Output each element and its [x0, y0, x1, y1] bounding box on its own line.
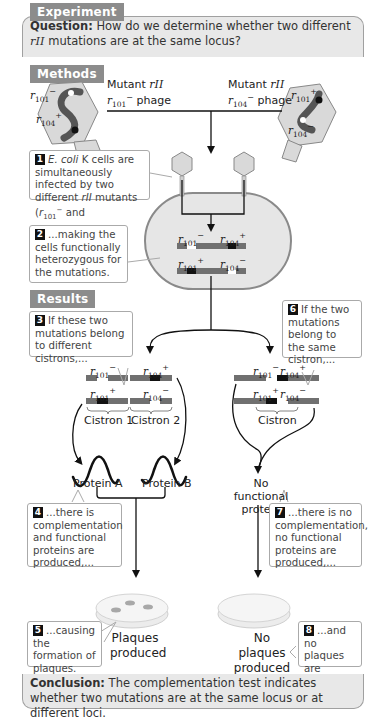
left-label-r101-minus: r101− — [90, 362, 116, 382]
step-2-callout: 2...making the cells functionally hetero… — [29, 225, 128, 283]
step-8-number: 8 — [304, 625, 314, 636]
cell-label-r104-minus: r104− — [220, 255, 246, 275]
right-label-r101-minus: r101− — [253, 362, 279, 382]
step-5-callout: 5...causing the formation of plaques. — [27, 621, 102, 667]
step-8-callout: 8...and no plaques are formed. — [298, 621, 362, 667]
results-header: Results — [30, 290, 95, 308]
cell-label-r104-plus: r104+ — [220, 230, 246, 250]
ecoli-cell-icon — [145, 152, 291, 289]
step-7-number: 7 — [275, 507, 285, 518]
petri-dish-plaques-icon — [96, 594, 168, 628]
left-label-r101-plus: r101+ — [90, 385, 116, 405]
step-1-callout: 1E. coli K cells are simultaneously infe… — [29, 150, 150, 200]
left-label-r104-plus: r104+ — [143, 362, 169, 382]
right-phage-bottom-label: r104− — [288, 121, 314, 141]
step-3-number: 3 — [35, 315, 45, 326]
right-label-r104-plus: r104+ — [280, 362, 306, 382]
plaques-produced-label: Plaquesproduced — [110, 631, 160, 661]
cell-label-r101-minus: r101− — [178, 230, 204, 250]
petri-dish-empty-icon — [218, 594, 290, 628]
right-phage-top-label: r101+ — [291, 86, 317, 106]
step-6-number: 6 — [288, 304, 298, 315]
left-phage-bottom-label: r104+ — [36, 110, 62, 130]
right-label-r104-minus: r104− — [280, 385, 306, 405]
right-label-r101-plus: r101+ — [253, 385, 279, 405]
step-3-callout: 3If these two mutations belong to differ… — [29, 311, 133, 357]
conclusion-label: Conclusion: — [30, 676, 105, 690]
step-4-callout: 4...there is complementation and functio… — [27, 503, 122, 567]
no-plaques-produced-label: No plaquesproduced — [230, 631, 294, 676]
conclusion-text: Conclusion: The complementation test ind… — [30, 676, 360, 721]
cistron-2-label: Cistron 2 — [131, 414, 180, 427]
step-4-number: 4 — [33, 507, 43, 518]
protein-a-label: Protein A — [73, 477, 123, 490]
step-5-number: 5 — [33, 625, 43, 636]
left-label-r104-minus: r104− — [143, 385, 169, 405]
step-1-number: 1 — [35, 154, 45, 165]
step-6-callout: 6If the two mutations belong to the same… — [282, 300, 362, 358]
left-phage-top-label: r101− — [30, 86, 56, 106]
cistron-label: Cistron — [258, 414, 297, 427]
step-7-callout: 7...there is no complementation, no func… — [269, 503, 362, 567]
cell-label-r101-plus: r101+ — [178, 255, 204, 275]
right-phage-title: Mutant rIIr104− phage — [228, 78, 292, 111]
cistron-1-label: Cistron 1 — [84, 414, 133, 427]
protein-b-label: Protein B — [142, 477, 192, 490]
left-phage-title: Mutant rIIr101− phage — [107, 78, 171, 111]
step-2-number: 2 — [35, 229, 45, 240]
